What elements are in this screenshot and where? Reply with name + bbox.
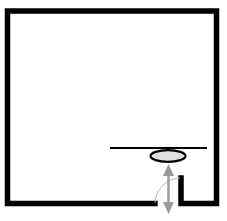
access-arrow-icon	[163, 164, 174, 214]
floor-plan-diagram	[0, 0, 227, 221]
sink-ellipse	[151, 150, 186, 162]
wall-main	[8, 11, 217, 204]
outer-wall	[8, 11, 217, 204]
